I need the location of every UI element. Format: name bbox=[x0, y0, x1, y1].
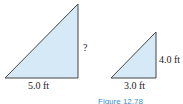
large-triangle-height-label: ? bbox=[83, 43, 87, 53]
small-triangle bbox=[111, 32, 156, 78]
small-triangle-base-label: 3.0 ft bbox=[124, 81, 145, 91]
figure-caption: Figure 12.78 bbox=[98, 98, 143, 104]
large-triangle-base-label: 5.0 ft bbox=[28, 81, 49, 91]
small-triangle-height-label: 4.0 ft bbox=[159, 55, 180, 65]
large-triangle bbox=[5, 4, 78, 78]
